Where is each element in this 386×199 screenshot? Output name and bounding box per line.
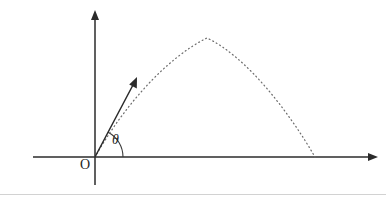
origin-label: O xyxy=(80,158,90,172)
velocity-vector-arrowhead xyxy=(129,77,137,89)
y-axis-group xyxy=(91,10,99,185)
diagram-canvas xyxy=(0,0,386,199)
projectile-diagram: O θ xyxy=(0,0,386,199)
trajectory-path xyxy=(95,38,315,157)
y-axis-arrowhead xyxy=(91,10,99,20)
x-axis-arrowhead xyxy=(368,153,378,161)
angle-label-theta: θ xyxy=(112,133,119,147)
